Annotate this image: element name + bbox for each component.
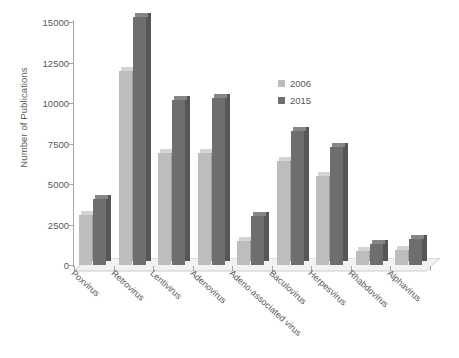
bar[interactable]	[133, 17, 146, 265]
bar-front-face	[277, 161, 290, 265]
bar-group	[311, 0, 351, 266]
bar-front-face	[212, 98, 225, 265]
y-tick-label: 0	[27, 260, 69, 271]
bar[interactable]	[251, 216, 264, 265]
bar[interactable]	[316, 176, 329, 265]
x-category-label: Herpesvirus	[307, 268, 349, 308]
bar[interactable]	[277, 161, 290, 265]
x-category-label: Rhabdovirus	[346, 268, 390, 309]
bar-group	[232, 0, 272, 266]
bar-side-face	[185, 96, 190, 261]
legend-swatch-2006	[278, 80, 285, 87]
plot-area: 0250050007500100001250015000 PoxvirusRet…	[0, 0, 459, 358]
bar[interactable]	[409, 239, 422, 265]
bar-group	[153, 0, 193, 266]
bar-front-face	[158, 153, 171, 265]
bar-side-face	[304, 127, 309, 261]
bar-group	[351, 0, 391, 266]
bar-front-face	[330, 147, 343, 265]
bar-front-face	[198, 153, 211, 265]
bar[interactable]	[291, 131, 304, 265]
bar-group	[74, 0, 114, 266]
bar-front-face	[291, 131, 304, 265]
x-category-label: Alphavirus	[386, 268, 424, 304]
legend-swatch-2015	[278, 97, 285, 104]
bar-front-face	[370, 244, 383, 265]
legend-item-2015[interactable]: 2015	[278, 93, 311, 108]
bar[interactable]	[198, 153, 211, 265]
bar[interactable]	[119, 71, 132, 265]
bar-side-face	[225, 94, 230, 261]
bar-front-face	[237, 241, 250, 265]
legend-item-2006[interactable]: 2006	[278, 76, 311, 91]
x-axis-category-labels: PoxvirusRetrovirusLentivirusAdenovirusAd…	[74, 268, 440, 358]
bar[interactable]	[93, 199, 106, 265]
bar-front-face	[395, 250, 408, 265]
bar-group	[272, 0, 312, 266]
y-tick-label: 5000	[27, 179, 69, 190]
y-tick-label: 2500	[27, 219, 69, 230]
bar[interactable]	[172, 100, 185, 265]
y-tick-label: 7500	[27, 138, 69, 149]
bar[interactable]	[370, 244, 383, 265]
y-tick-label: 10000	[27, 98, 69, 109]
bar[interactable]	[356, 251, 369, 265]
bar-side-face	[146, 13, 151, 261]
bar[interactable]	[330, 147, 343, 265]
bar-group	[114, 0, 154, 266]
x-category-label: Retrovirus	[109, 268, 146, 303]
bar-front-face	[356, 251, 369, 265]
x-category-label: Adeno-associated virus	[228, 268, 304, 338]
bar-group	[390, 0, 430, 266]
x-category-label: Adenovirus	[188, 268, 228, 306]
y-tick-label: 15000	[27, 17, 69, 28]
bar-front-face	[79, 215, 92, 265]
bar-side-face	[106, 195, 111, 261]
legend-label-2015: 2015	[290, 95, 311, 106]
x-category-label: Lentivirus	[148, 268, 183, 301]
legend-label-2006: 2006	[290, 78, 311, 89]
bar-side-face	[264, 212, 269, 261]
bars-layer	[74, 0, 430, 266]
bar-front-face	[251, 216, 264, 265]
bar[interactable]	[79, 215, 92, 265]
bar-chart: Number of Publications 02500500075001000…	[0, 0, 459, 358]
bar[interactable]	[395, 250, 408, 265]
bar-front-face	[172, 100, 185, 265]
bar-group	[193, 0, 233, 266]
bar[interactable]	[237, 241, 250, 265]
legend: 2006 2015	[278, 76, 311, 110]
y-tick-label: 12500	[27, 57, 69, 68]
bar-front-face	[133, 17, 146, 265]
bar-front-face	[119, 71, 132, 265]
bar-front-face	[409, 239, 422, 265]
x-category-label: Baculovirus	[267, 268, 308, 307]
bar[interactable]	[212, 98, 225, 265]
bar[interactable]	[158, 153, 171, 265]
x-category-label: Poxvirus	[69, 268, 101, 299]
bar-front-face	[93, 199, 106, 265]
bar-side-face	[343, 143, 348, 261]
bar-front-face	[316, 176, 329, 265]
